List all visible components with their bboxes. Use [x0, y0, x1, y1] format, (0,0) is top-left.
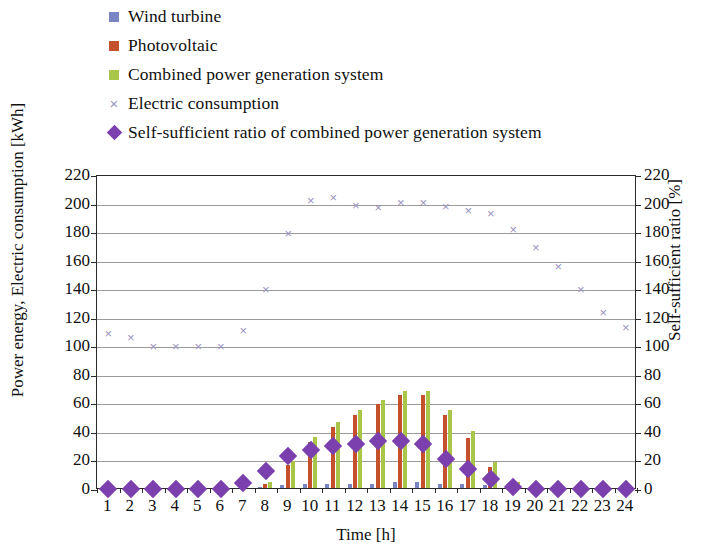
y-tick-mark-right [635, 433, 641, 434]
y-tick-label-left: 160 [65, 251, 91, 271]
legend-label: Photovoltaic [128, 36, 218, 55]
y-tick-mark-left [91, 205, 97, 206]
x-tick-label: 18 [481, 496, 498, 516]
gridline [97, 205, 635, 206]
x-tick-mark [570, 488, 571, 493]
x-tick-label: 7 [238, 496, 247, 516]
bar-wind-turbine [280, 485, 284, 488]
legend-item-electric-consumption[interactable]: ×Electric consumption [106, 89, 706, 118]
y-tick-label-left: 0 [82, 479, 91, 499]
marker-self-sufficient-ratio [527, 479, 545, 497]
x-tick-label: 1 [103, 496, 112, 516]
y-tick-label-right: 80 [644, 365, 661, 385]
marker-self-sufficient-ratio [99, 479, 117, 497]
marker-self-sufficient-ratio [189, 479, 207, 497]
legend-item-photovoltaic[interactable]: Photovoltaic [106, 31, 706, 60]
y-axis-left-ticks: 020406080100120140160180200220 [30, 175, 90, 489]
marker-electric-consumption: × [284, 227, 292, 240]
y-tick-mark-right [635, 290, 641, 291]
marker-electric-consumption: × [149, 339, 157, 352]
gridline [97, 376, 635, 377]
x-tick-label: 10 [301, 496, 318, 516]
x-tick-label: 17 [459, 496, 476, 516]
x-tick-mark [390, 488, 391, 493]
x-tick-label: 2 [126, 496, 135, 516]
x-tick-mark [232, 488, 233, 493]
x-tick-label: 15 [414, 496, 431, 516]
x-tick-mark [300, 488, 301, 493]
x-tick-mark [615, 488, 616, 493]
y-tick-mark-left [91, 176, 97, 177]
marker-electric-consumption: × [599, 305, 607, 318]
x-tick-label: 23 [594, 496, 611, 516]
x-axis-title: Time [h] [96, 525, 636, 545]
legend-square-icon [106, 2, 122, 31]
marker-electric-consumption: × [239, 324, 247, 337]
marker-electric-consumption: × [104, 327, 112, 340]
gridline [97, 404, 635, 405]
marker-electric-consumption: × [262, 282, 270, 295]
bar-wind-turbine [393, 482, 397, 488]
y-tick-mark-left [91, 347, 97, 348]
y-tick-mark-right [635, 490, 641, 491]
legend-cross-icon: × [106, 89, 122, 118]
gridline [97, 433, 635, 434]
marker-electric-consumption: × [464, 204, 472, 217]
plot-area: ×××××××××××××××××××××××× [96, 175, 636, 489]
marker-electric-consumption: × [532, 241, 540, 254]
bar-wind-turbine [415, 482, 419, 488]
marker-self-sufficient-ratio [144, 479, 162, 497]
y-tick-label-left: 40 [73, 422, 90, 442]
marker-self-sufficient-ratio [122, 479, 140, 497]
y-tick-mark-left [91, 433, 97, 434]
x-tick-mark [412, 488, 413, 493]
marker-electric-consumption: × [487, 207, 495, 220]
y-tick-mark-right [635, 205, 641, 206]
x-tick-label: 3 [148, 496, 157, 516]
y-tick-mark-left [91, 404, 97, 405]
y-tick-label-left: 60 [73, 393, 90, 413]
x-tick-mark [637, 488, 638, 493]
y-tick-label-left: 100 [65, 336, 91, 356]
x-axis-ticks: 123456789101112131415161718192021222324 [96, 496, 636, 520]
gridline [97, 461, 635, 462]
x-tick-mark [367, 488, 368, 493]
x-tick-label: 19 [504, 496, 521, 516]
x-tick-label: 14 [391, 496, 408, 516]
x-tick-mark [277, 488, 278, 493]
legend-label: Self-sufficient ratio of combined power … [128, 123, 542, 142]
bar-wind-turbine [325, 484, 329, 488]
y-tick-mark-left [91, 461, 97, 462]
y-tick-label-left: 220 [65, 165, 91, 185]
bar-combined-power-generation-system [268, 482, 272, 488]
x-tick-mark [322, 488, 323, 493]
legend-square-icon [106, 31, 122, 60]
bar-photovoltaic [286, 465, 290, 488]
legend-item-self-sufficient-ratio[interactable]: Self-sufficient ratio of combined power … [106, 118, 706, 147]
marker-self-sufficient-ratio [594, 479, 612, 497]
y-tick-label-left: 200 [65, 194, 91, 214]
marker-electric-consumption: × [352, 198, 360, 211]
marker-electric-consumption: × [442, 199, 450, 212]
marker-self-sufficient-ratio [257, 462, 275, 480]
legend-item-combined[interactable]: Combined power generation system [106, 60, 706, 89]
x-tick-label: 21 [549, 496, 566, 516]
x-tick-label: 4 [171, 496, 180, 516]
x-tick-mark [435, 488, 436, 493]
bar-combined-power-generation-system [471, 431, 475, 488]
bar-photovoltaic [263, 484, 267, 488]
legend-swatch: × [110, 96, 119, 111]
y-tick-mark-right [635, 461, 641, 462]
chart-legend: Wind turbinePhotovoltaicCombined power g… [106, 2, 706, 147]
bar-combined-power-generation-system [448, 410, 452, 489]
x-tick-label: 20 [526, 496, 543, 516]
marker-electric-consumption: × [577, 282, 585, 295]
bar-wind-turbine [460, 484, 464, 488]
x-tick-label: 8 [261, 496, 270, 516]
bar-wind-turbine [483, 485, 487, 488]
x-tick-mark [255, 488, 256, 493]
legend-item-wind-turbine[interactable]: Wind turbine [106, 2, 706, 31]
marker-self-sufficient-ratio [504, 478, 522, 496]
x-tick-label: 12 [346, 496, 363, 516]
marker-electric-consumption: × [374, 201, 382, 214]
